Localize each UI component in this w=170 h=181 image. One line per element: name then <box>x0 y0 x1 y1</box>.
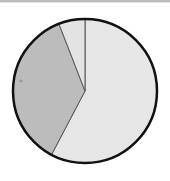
pie-chart <box>0 0 170 181</box>
slice-marker-dot <box>19 79 22 82</box>
